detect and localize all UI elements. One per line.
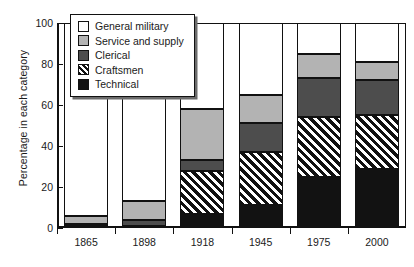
bar-segment-service-1918 [180,109,224,160]
legend-swatch-craftsmen-icon [78,64,89,75]
bar-segment-clerical-1865 [64,224,108,226]
x-axis-tick-label: 2000 [365,236,388,248]
legend-item-general[interactable]: General military [78,19,184,34]
y-axis-tick [57,105,63,106]
legend-item-craftsmen[interactable]: Craftsmen [78,63,184,78]
y-axis-tick-label: 20 [19,181,53,193]
x-axis-tick [57,228,58,234]
bar-segment-craftsmen-1945 [239,152,283,205]
y-axis-tick-label: 80 [19,58,53,70]
legend-item-label: General military [95,21,169,32]
stacked-bar-chart: Percentage in each category 020406080100… [0,0,414,267]
bar-segment-general-2000 [355,23,399,62]
bar-segment-technical-2000 [355,169,399,228]
x-axis-tick [173,228,174,234]
bar-segment-clerical-1975 [297,78,341,117]
bar-segment-clerical-1945 [239,123,283,152]
bar-segment-technical-1865 [64,226,108,228]
bar-segment-service-1975 [297,54,341,79]
legend-swatch-service-icon [78,35,89,46]
bar-segment-general-1945 [239,23,283,95]
bar-segment-technical-1918 [180,214,224,228]
legend-item-label: Clerical [95,50,130,61]
bar-segment-clerical-1918 [180,160,224,170]
y-axis-tick [57,146,63,147]
y-axis-tick-label: 100 [19,17,53,29]
bar-segment-technical-1945 [239,205,283,228]
bar-segment-service-2000 [355,62,399,80]
legend-swatch-technical-icon [78,79,89,90]
bar-segment-clerical-1898 [122,220,166,226]
y-axis-tick-label: 40 [19,140,53,152]
legend-item-technical[interactable]: Technical [78,77,184,92]
legend-item-service[interactable]: Service and supply [78,34,184,49]
x-axis-tick-label: 1945 [249,236,272,248]
legend-swatch-general-icon [78,21,89,32]
y-axis-tick-label: 0 [19,222,53,234]
y-axis-tick [57,64,63,65]
bar-segment-service-1945 [239,95,283,124]
x-axis-tick-label: 1865 [74,236,97,248]
bar-segment-clerical-2000 [355,80,399,115]
y-axis-tick-label: 60 [19,99,53,111]
bar-segment-craftsmen-1918 [180,171,224,214]
x-axis-tick [348,228,349,234]
y-axis-tick [57,187,63,188]
bar-segment-service-1865 [64,216,108,224]
bar-segment-craftsmen-2000 [355,115,399,168]
x-axis-tick [115,228,116,234]
legend-item-label: Service and supply [95,36,184,47]
x-axis-tick-label: 1898 [133,236,156,248]
bar-1975 [297,23,341,228]
bar-segment-service-1898 [122,201,166,219]
x-axis-tick-label: 1975 [307,236,330,248]
bar-segment-technical-1898 [122,226,166,228]
legend-swatch-clerical-icon [78,50,89,61]
legend-item-label: Craftsmen [95,65,143,76]
bar-segment-craftsmen-1975 [297,117,341,176]
x-axis-tick [290,228,291,234]
legend-item-clerical[interactable]: Clerical [78,48,184,63]
legend-item-label: Technical [95,79,139,90]
bar-2000 [355,23,399,228]
bar-1945 [239,23,283,228]
y-axis-tick [57,23,63,24]
chart-legend: General militaryService and supplyCleric… [70,14,195,97]
bar-segment-technical-1975 [297,177,341,228]
bar-segment-general-1975 [297,23,341,54]
x-axis-tick-label: 1918 [191,236,214,248]
x-axis-tick [232,228,233,234]
